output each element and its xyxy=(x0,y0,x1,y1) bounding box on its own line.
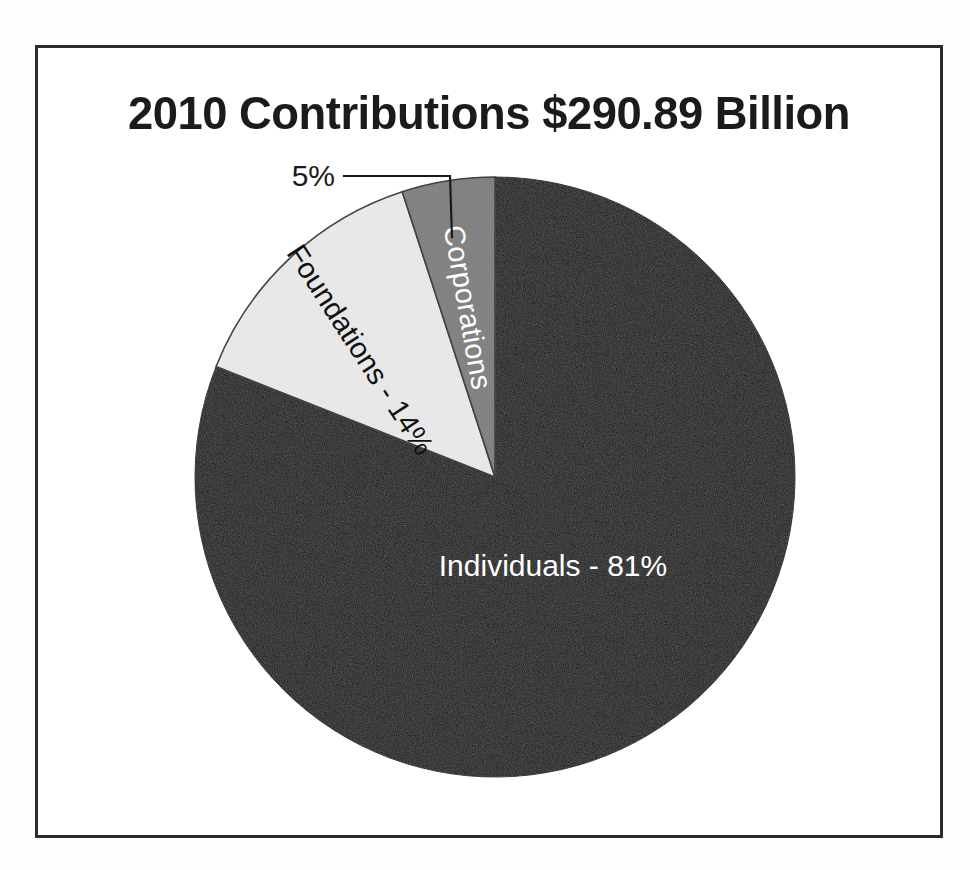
pie-chart: Individuals - 81% Foundations - 14% Corp… xyxy=(0,0,970,870)
callout-label-5-percent: 5% xyxy=(292,159,335,192)
slice-label-individuals: Individuals - 81% xyxy=(439,549,667,582)
pie-chart-svg: Individuals - 81% Foundations - 14% Corp… xyxy=(0,0,970,870)
